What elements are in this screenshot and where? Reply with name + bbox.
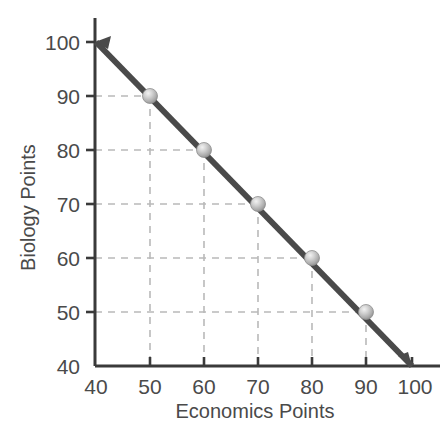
y-tick-label: 80 bbox=[57, 139, 80, 162]
y-tick-label: 50 bbox=[57, 301, 80, 324]
x-tick-label: 100 bbox=[397, 375, 432, 398]
x-tick-label: 90 bbox=[354, 375, 377, 398]
y-tick-label: 100 bbox=[45, 31, 80, 54]
data-point bbox=[143, 89, 158, 104]
chart-canvas: 100 90 80 70 60 50 40 40 50 60 70 80 90 … bbox=[0, 0, 440, 428]
chart-figure: 100 90 80 70 60 50 40 40 50 60 70 80 90 … bbox=[0, 0, 440, 428]
x-axis-tick-labels: 40 50 60 70 80 90 100 bbox=[84, 375, 432, 398]
y-tick-label: 60 bbox=[57, 247, 80, 270]
y-tick-label: 40 bbox=[57, 355, 80, 378]
x-tick-label: 40 bbox=[84, 375, 107, 398]
x-tick-label: 50 bbox=[138, 375, 161, 398]
y-tick-label: 90 bbox=[57, 85, 80, 108]
data-point bbox=[359, 305, 374, 320]
y-tick-label: 70 bbox=[57, 193, 80, 216]
y-axis-tick-labels: 100 90 80 70 60 50 40 bbox=[45, 31, 80, 378]
data-point bbox=[197, 143, 212, 158]
x-axis-title: Economics Points bbox=[95, 400, 415, 423]
y-axis-title: Biology Points bbox=[17, 118, 40, 298]
x-tick-label: 70 bbox=[246, 375, 269, 398]
data-point bbox=[305, 251, 320, 266]
x-tick-label: 80 bbox=[300, 375, 323, 398]
guide-lines-vertical bbox=[150, 96, 366, 366]
data-point bbox=[251, 197, 266, 212]
x-tick-label: 60 bbox=[192, 375, 215, 398]
